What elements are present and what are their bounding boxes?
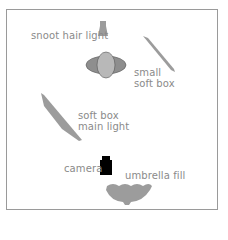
small-softbox-label-line1: small: [134, 67, 161, 78]
main-softbox-icon: [41, 93, 82, 141]
subject-icon: [86, 52, 126, 78]
snoot-label: snoot hair light: [31, 30, 108, 41]
small-softbox-label-line2: soft box: [134, 78, 175, 89]
camera-label: camera: [64, 163, 102, 174]
umbrella-fill-icon: [106, 184, 152, 205]
umbrella-label: umbrella fill: [125, 170, 186, 181]
main-softbox-label-line2: main light: [78, 121, 129, 132]
main-softbox-label-line1: soft box: [78, 110, 119, 121]
